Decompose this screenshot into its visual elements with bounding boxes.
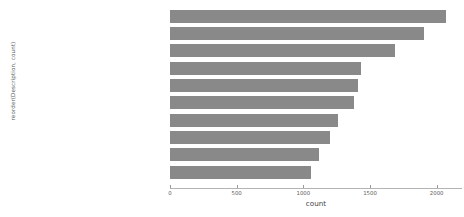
bar (170, 131, 330, 144)
bar-row: JUMBO BAG RED RETROSPOT (170, 44, 462, 57)
bar-row: PARTY BUNTING (170, 79, 462, 92)
x-axis-tick-label: 1000 (296, 190, 310, 196)
x-axis-tick-label: 500 (232, 190, 242, 196)
plot-area: WHITE HANGING HEART T-LIGHT HOLDERREGENC… (170, 8, 462, 188)
bar (170, 96, 354, 109)
bar-row: PACK OF 72 RETROSPOT CAKE CASES (170, 166, 462, 179)
x-axis-tick-mark (437, 185, 438, 188)
x-axis-tick-label: 2000 (430, 190, 444, 196)
x-axis-title: count (170, 199, 462, 208)
bar (170, 114, 338, 127)
x-axis-tick-mark (303, 185, 304, 188)
x-axis-tick-mark (370, 185, 371, 188)
bar (170, 10, 446, 23)
bar (170, 27, 424, 40)
x-axis-tick-mark (170, 185, 171, 188)
x-axis-tick-mark (237, 185, 238, 188)
bar-chart: reorder(Description, count) WHITE HANGIN… (0, 0, 464, 217)
x-axis-tick-label: 0 (168, 190, 171, 196)
bar (170, 62, 361, 75)
bar-row: LUNCH BAG BLACK SKULL. (170, 148, 462, 161)
y-axis-title: reorder(Description, count) (10, 16, 16, 146)
bar (170, 44, 395, 57)
bar (170, 79, 358, 92)
bar (170, 148, 319, 161)
bar-row: WHITE HANGING HEART T-LIGHT HOLDER (170, 10, 462, 23)
bar-row: LUNCH BAG RED RETROSPOT (170, 96, 462, 109)
x-axis-line (170, 188, 462, 189)
bars-layer: WHITE HANGING HEART T-LIGHT HOLDERREGENC… (170, 8, 462, 188)
bar (170, 166, 311, 179)
bar-row: ASSORTED COLOUR BIRD ORNAMENT (170, 62, 462, 75)
bar-row: SET OF 3 CAKE TINS PANTRY DESIGN (170, 114, 462, 127)
x-axis-tick-label: 1500 (363, 190, 377, 196)
bar-row: REGENCY CAKESTAND 3 TIER (170, 27, 462, 40)
bar-row: POSTAGE (170, 131, 462, 144)
